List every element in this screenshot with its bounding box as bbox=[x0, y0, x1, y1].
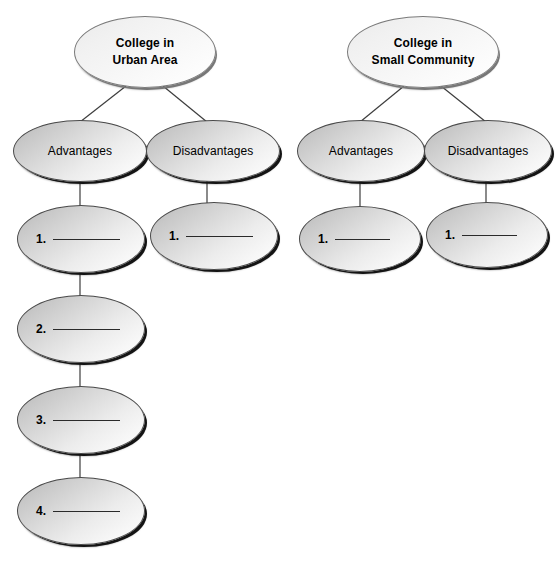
item-node-community-advantages-1[interactable]: 1. bbox=[299, 206, 421, 272]
item-row-community-disadvantages-1: 1. bbox=[427, 228, 547, 242]
item-node-urban-advantages-4[interactable]: 4. bbox=[17, 477, 145, 545]
item-blank-line-community-advantages-1[interactable] bbox=[335, 239, 390, 240]
item-row-urban-advantages-1: 1. bbox=[18, 232, 144, 246]
item-node-urban-advantages-2[interactable]: 2. bbox=[17, 295, 145, 363]
branch-node-urban-advantages-label: Advantages bbox=[40, 144, 120, 159]
root-node-urban-area[interactable]: College in Urban Area bbox=[74, 16, 216, 88]
branch-node-urban-disadvantages[interactable]: Disadvantages bbox=[146, 120, 280, 182]
item-number-community-disadvantages-1: 1. bbox=[445, 228, 455, 242]
root-community-line1: College in bbox=[394, 36, 452, 50]
root-node-urban-area-label: College in Urban Area bbox=[104, 35, 185, 70]
item-row-urban-advantages-2: 2. bbox=[18, 322, 144, 336]
connector-urban-root-to-advantages bbox=[80, 86, 126, 122]
root-urban-line2: Urban Area bbox=[112, 53, 177, 67]
item-number-community-advantages-1: 1. bbox=[318, 232, 328, 246]
item-number-urban-disadvantages-1: 1. bbox=[169, 229, 179, 243]
item-row-urban-advantages-3: 3. bbox=[18, 413, 144, 427]
branch-node-urban-advantages[interactable]: Advantages bbox=[13, 120, 147, 182]
item-blank-line-community-disadvantages-1[interactable] bbox=[462, 235, 517, 236]
connector-urban-root-to-disadvantages bbox=[163, 86, 207, 122]
item-number-urban-advantages-2: 2. bbox=[36, 322, 46, 336]
item-number-urban-advantages-4: 4. bbox=[36, 504, 46, 518]
root-node-small-community-label: College in Small Community bbox=[364, 35, 483, 70]
item-row-urban-advantages-4: 4. bbox=[18, 504, 144, 518]
item-blank-line-urban-advantages-2[interactable] bbox=[53, 329, 120, 330]
item-blank-line-urban-advantages-4[interactable] bbox=[53, 511, 120, 512]
item-node-community-disadvantages-1[interactable]: 1. bbox=[426, 202, 548, 268]
item-node-urban-disadvantages-1[interactable]: 1. bbox=[150, 202, 278, 270]
root-urban-line1: College in bbox=[116, 36, 174, 50]
root-node-small-community[interactable]: College in Small Community bbox=[347, 16, 499, 88]
item-node-urban-advantages-1[interactable]: 1. bbox=[17, 205, 145, 273]
item-row-community-advantages-1: 1. bbox=[300, 232, 420, 246]
branch-node-community-advantages[interactable]: Advantages bbox=[297, 120, 425, 182]
branch-node-community-disadvantages[interactable]: Disadvantages bbox=[424, 120, 552, 182]
branch-node-community-disadvantages-label: Disadvantages bbox=[440, 144, 537, 159]
branch-node-community-advantages-label: Advantages bbox=[321, 144, 401, 159]
branch-node-urban-disadvantages-label: Disadvantages bbox=[165, 144, 262, 159]
item-node-urban-advantages-3[interactable]: 3. bbox=[17, 386, 145, 454]
root-community-line2: Small Community bbox=[372, 53, 475, 67]
diagram-canvas: College in Urban Area Advantages Disadva… bbox=[0, 0, 559, 570]
item-number-urban-advantages-3: 3. bbox=[36, 413, 46, 427]
item-blank-line-urban-advantages-1[interactable] bbox=[53, 239, 120, 240]
item-blank-line-urban-advantages-3[interactable] bbox=[53, 420, 120, 421]
connector-community-root-to-advantages bbox=[360, 86, 404, 122]
item-row-urban-disadvantages-1: 1. bbox=[151, 229, 277, 243]
item-number-urban-advantages-1: 1. bbox=[36, 232, 46, 246]
item-blank-line-urban-disadvantages-1[interactable] bbox=[186, 236, 253, 237]
connector-community-root-to-disadvantages bbox=[441, 86, 486, 122]
